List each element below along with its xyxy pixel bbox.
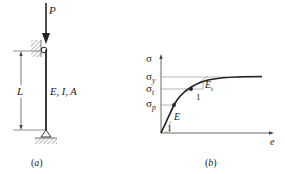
length-label: L <box>16 85 23 97</box>
properties-label: E, I, A <box>49 86 77 97</box>
elastic-slope-unit: 1 <box>167 123 172 133</box>
x-axis-label: e <box>270 136 275 147</box>
tangent-point <box>189 87 193 91</box>
proportional-limit-point <box>172 103 176 107</box>
x-axis-arrow-icon <box>269 131 274 134</box>
y-axis-label: σ <box>146 52 152 64</box>
figure-canvas: P L E, I, A (a) <box>0 0 285 174</box>
tangent-slope-unit: 1 <box>196 92 201 102</box>
top-wall-hatch <box>31 40 41 57</box>
caption-a: (a) <box>31 157 43 169</box>
sigma-p-label: σp <box>146 97 156 112</box>
column-figure: P L E, I, A (a) <box>13 3 77 169</box>
tangent-modulus-label: Et <box>204 79 214 93</box>
ground-hatch <box>35 138 57 144</box>
pin-support-icon <box>41 130 51 137</box>
elastic-modulus-label: E <box>173 111 180 122</box>
load-label: P <box>48 4 56 16</box>
caption-b: (b) <box>205 157 217 169</box>
y-axis-arrow-icon <box>159 54 162 59</box>
stress-strain-chart: σ σy σt σp E 1 Et 1 e (b) <box>146 52 275 169</box>
